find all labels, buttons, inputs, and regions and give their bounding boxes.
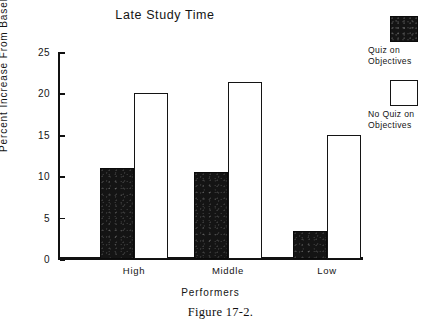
y-tick-mark xyxy=(60,218,65,220)
y-tick-label: 5 xyxy=(44,212,50,223)
y-tick-label: 20 xyxy=(38,88,50,99)
figure-bar-chart: Late Study Time 0510152025 HighMiddleLow… xyxy=(0,0,441,326)
y-tick-label: 10 xyxy=(38,171,50,182)
y-tick-mark xyxy=(60,93,65,95)
x-label-low: Low xyxy=(317,265,337,276)
bar-low-no-quiz xyxy=(327,135,361,259)
figure-caption: Figure 17-2. xyxy=(0,305,441,320)
bar-low-quiz xyxy=(293,231,327,259)
y-tick-mark xyxy=(60,135,65,137)
x-label-high: High xyxy=(123,265,145,276)
legend-swatch-hollow xyxy=(390,80,418,106)
plot-area: 0510152025 HighMiddleLow xyxy=(58,50,363,262)
x-axis-title: Performers xyxy=(58,287,363,298)
y-axis-title: Percent Increase From Baseline xyxy=(0,0,9,152)
legend-label: No Quiz on Objectives xyxy=(366,109,441,130)
y-tick-label: 0 xyxy=(44,254,50,265)
y-tick-label: 15 xyxy=(38,129,50,140)
legend-swatch-filled xyxy=(390,16,418,42)
bar-high-quiz xyxy=(100,168,134,259)
y-tick-mark xyxy=(60,176,65,178)
chart-legend: Quiz on ObjectivesNo Quiz on Objectives xyxy=(366,16,441,144)
bar-middle-no-quiz xyxy=(228,82,262,259)
legend-item-quiz: Quiz on Objectives xyxy=(366,16,441,66)
y-tick-mark xyxy=(60,259,65,261)
bar-high-no-quiz xyxy=(134,93,168,259)
y-tick-mark xyxy=(60,52,65,54)
legend-item-no-quiz: No Quiz on Objectives xyxy=(366,80,441,130)
x-label-middle: Middle xyxy=(212,265,244,276)
y-axis-line xyxy=(58,52,60,259)
bar-middle-quiz xyxy=(194,172,228,259)
legend-label: Quiz on Objectives xyxy=(366,45,441,66)
chart-title: Late Study Time xyxy=(0,8,330,22)
y-tick-label: 25 xyxy=(38,47,50,58)
